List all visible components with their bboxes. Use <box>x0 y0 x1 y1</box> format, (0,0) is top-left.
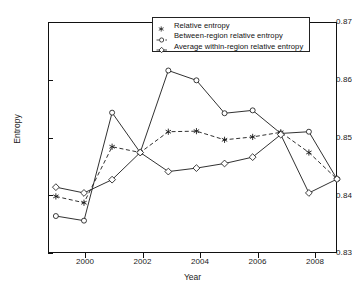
circle-marker <box>306 129 311 134</box>
y-tick-mark <box>48 253 53 254</box>
y-axis-title: Entropy <box>12 99 22 159</box>
circle-marker <box>166 68 171 73</box>
legend-label: Between-region relative entropy <box>174 31 283 40</box>
x-tick-label: 2004 <box>180 258 220 266</box>
x-tick-label: 2008 <box>295 258 335 266</box>
diamond-marker <box>221 160 228 167</box>
entropy-line-chart: 0.87 0.86 0.85 0.84 0.83 2000 2002 2004 … <box>0 0 352 291</box>
diamond-marker <box>52 184 59 191</box>
circle-marker <box>110 110 115 115</box>
legend-label: Relative entropy <box>174 21 230 30</box>
circle-marker-icon <box>156 31 174 41</box>
x-tick-label: 2006 <box>238 258 278 266</box>
star-marker <box>166 129 171 135</box>
circle-marker <box>222 111 227 116</box>
series-layer <box>48 22 337 253</box>
circle-marker <box>250 108 255 113</box>
circle-marker <box>81 218 86 223</box>
legend-item-relative-entropy: Relative entropy <box>156 20 309 31</box>
diamond-marker <box>81 190 88 197</box>
diamond-marker-icon <box>156 41 174 51</box>
diamond-marker <box>305 190 312 197</box>
star-marker-icon <box>156 20 174 30</box>
x-tick-label: 2002 <box>123 258 163 266</box>
series-diamond <box>52 131 340 196</box>
diamond-marker <box>193 165 200 172</box>
legend-item-between-region: Between-region relative entropy <box>156 31 309 42</box>
series-circle <box>53 68 339 223</box>
x-axis-title: Year <box>48 272 337 282</box>
legend-item-average-within-region: Average within-region relative entropy <box>156 41 309 52</box>
legend: Relative entropy Between-region relative… <box>152 17 310 52</box>
x-tick-label: 2000 <box>65 258 105 266</box>
circle-marker <box>194 78 199 83</box>
legend-label: Average within-region relative entropy <box>174 42 303 51</box>
circle-marker <box>53 214 58 219</box>
diamond-marker <box>165 168 172 175</box>
